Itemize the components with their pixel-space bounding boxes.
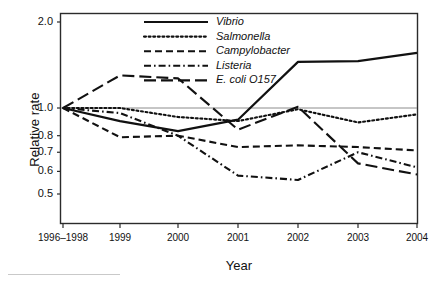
x-tick-label: 2001 (227, 233, 249, 243)
legend-label-listeria: Listeria (216, 60, 251, 71)
legend-label-campylobacter: Campylobacter (216, 45, 290, 56)
x-tick-label: 2002 (287, 233, 309, 243)
y-tick-label: 1.0 (19, 102, 53, 113)
x-axis-title: Year (60, 258, 418, 273)
x-tick-label: 2000 (167, 233, 189, 243)
y-tick-label: 0.5 (19, 188, 53, 199)
legend-label-salmonella: Salmonella (216, 31, 270, 42)
series-lines (63, 53, 417, 180)
legend-swatches (144, 22, 208, 80)
y-tick-label: 0.7 (19, 146, 53, 157)
legend-label-e-coli-o157: E. coli O157 (216, 74, 276, 85)
y-tick-label: 2.0 (19, 16, 53, 27)
footer-divider (8, 274, 120, 275)
x-tick-label: 1996–1998 (38, 233, 88, 243)
x-tick-label: 1999 (109, 233, 131, 243)
y-tick-label: 0.6 (19, 165, 53, 176)
series-line-e-coli-o157 (63, 75, 417, 174)
legend-label-vibrio: Vibrio (216, 16, 244, 27)
y-tick-label: 0.8 (19, 130, 53, 141)
relative-rate-line-chart: Relative rate Year 2.01.00.80.70.60.5 19… (0, 0, 448, 284)
x-tick-label: 2003 (347, 233, 369, 243)
x-tick-label: 2004 (406, 233, 428, 243)
